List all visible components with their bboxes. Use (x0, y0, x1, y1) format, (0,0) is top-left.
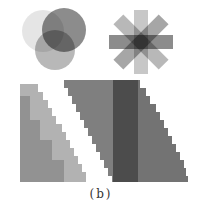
parallelogram-dark-band (113, 80, 138, 182)
asterisk-star (109, 10, 173, 74)
circle-right (42, 8, 86, 52)
figure-caption: (b) (0, 187, 202, 201)
parallelogram-right-region (138, 80, 188, 182)
overlapping-circles (22, 8, 86, 70)
figure-canvas (0, 0, 202, 211)
